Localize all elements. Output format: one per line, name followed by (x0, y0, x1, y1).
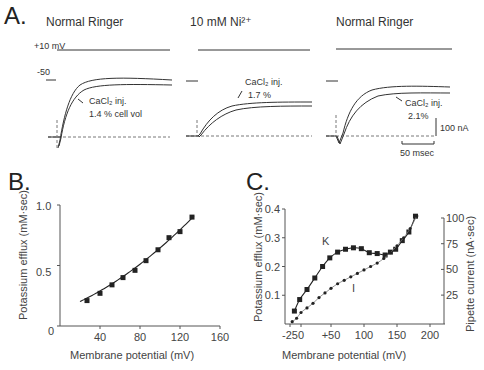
chart-b-data-point (167, 235, 172, 240)
chart-c-xtick-label: 0 (298, 329, 304, 341)
chart-c-i-point (317, 296, 320, 299)
chart-b-ytick-2: 1.0 (36, 200, 51, 212)
chart-c-xlabel: Membrane potential (mV) (282, 349, 406, 361)
chart-c-i-point (369, 265, 372, 268)
chart-c-i-point (349, 275, 352, 278)
chart-c-ytick-right-label: 100 (446, 212, 464, 224)
series-label-i: I (352, 282, 355, 294)
chart-b-data-point (156, 247, 161, 252)
chart-c-i-point (362, 268, 365, 271)
chart-b-xtick-label: 40 (94, 331, 106, 343)
chart-c-i-point (311, 302, 314, 305)
chart-b-data-point (178, 229, 183, 234)
chart-c-k-point (343, 247, 348, 252)
chart-c-i-point (295, 317, 298, 320)
panel-c-letter: C. (246, 168, 270, 195)
chart-c-ytick-label: 0.3 (265, 232, 280, 244)
chart-c-i-point (336, 282, 339, 285)
annotation-1-line2: 1.4 % cell vol (89, 109, 142, 119)
chart-b-xtick-label: 80 (134, 331, 146, 343)
chart-c-xtick-label: 200 (421, 329, 439, 341)
chart-c-i-point (395, 244, 398, 247)
chart-b-data-point (98, 291, 103, 296)
chart-c-k-point (305, 287, 310, 292)
annotation-2-line1: CaCl₂ inj. (245, 77, 283, 87)
panel-b: B. 4080120160 0 0.5 1.0 Membrane potenti… (8, 168, 229, 361)
scale-time-label: 50 msec (400, 148, 435, 158)
chart-b-ytick-0: 0 (48, 325, 54, 337)
chart-c-i-point (305, 306, 308, 309)
chart-c-k-point (335, 250, 340, 255)
chart-c-i-point (291, 320, 294, 323)
chart-b-data-point (144, 258, 149, 263)
panel-c: C. 0.10.20.30.4255075100-250+50100150200… (246, 168, 476, 361)
chart-c-k-line (294, 216, 415, 311)
chart-c-k-point (312, 276, 317, 281)
chart-c-k-point (297, 297, 302, 302)
chart-c-ytick-right-label: 75 (446, 238, 458, 250)
chart-b-data-point (133, 268, 138, 273)
chart-c-ytick-right-label: 25 (446, 289, 458, 301)
chart-b-ytick-1: 0.5 (36, 266, 51, 278)
chart-c: 0.10.20.30.4255075100-250+50100150200 (265, 203, 465, 341)
current-traces-2: CaCl₂ inj. 1.7 % (186, 77, 312, 137)
chart-b-ylabel: Potassium efflux (mM·sec) (17, 190, 29, 320)
chart-c-k-point (327, 255, 332, 260)
chart-c-ytick-label: 0.2 (265, 261, 280, 273)
chart-c-ylabel-left: Potassium efflux (mM·sec) (252, 192, 264, 322)
figure: A. Normal Ringer 10 mM Ni²⁺ Normal Ringe… (0, 0, 484, 370)
current-traces-1: CaCl₂ inj. 1.4 % cell vol (48, 78, 172, 148)
chart-c-k-point (292, 309, 297, 314)
scale-bars: 100 nA 50 msec (400, 118, 469, 158)
chart-b-data-point (121, 275, 126, 280)
annotation-2-line2: 1.7 % (248, 90, 271, 100)
chart-c-xtick-label: 150 (388, 329, 406, 341)
chart-c-i-line (292, 216, 417, 322)
chart-b-xtick-label: 160 (211, 331, 229, 343)
chart-c-i-point (389, 251, 392, 254)
annotation-1-line1: CaCl₂ inj. (89, 96, 127, 106)
chart-c-i-point (356, 272, 359, 275)
chart-c-i-point (415, 214, 418, 217)
chart-c-i-point (402, 236, 405, 239)
panel-a-letter: A. (4, 2, 27, 29)
chart-c-k-point (375, 251, 380, 256)
chart-c-k-point (320, 264, 325, 269)
voltage-low-label: -50 (37, 67, 50, 77)
chart-c-i-point (329, 287, 332, 290)
chart-b: 4080120160 (57, 205, 229, 343)
chart-c-k-point (359, 246, 364, 251)
chart-c-i-point (343, 279, 346, 282)
condition-title-3: Normal Ringer (336, 15, 413, 29)
chart-c-i-point (409, 227, 412, 230)
chart-c-ylabel-right: Pipette current (nA·sec) (464, 216, 476, 332)
chart-c-ytick-label: 0.4 (265, 203, 280, 215)
chart-b-data-point (110, 282, 115, 287)
annotation-3-line1: CaCl₂ inj. (405, 98, 443, 108)
chart-c-i-point (376, 261, 379, 264)
chart-c-i-point (382, 257, 385, 260)
chart-c-xtick-label: 100 (355, 329, 373, 341)
chart-c-xtick-label: -25 (282, 329, 298, 341)
chart-c-ytick-right-label: 50 (446, 263, 458, 275)
chart-c-k-point (351, 245, 356, 250)
chart-c-k-point (383, 253, 388, 258)
condition-title-2: 10 mM Ni²⁺ (190, 15, 252, 29)
chart-b-xtick-label: 120 (171, 331, 189, 343)
chart-c-i-point (299, 311, 302, 314)
chart-c-ytick-label: 0.1 (265, 289, 280, 301)
annotation-3-line2: 2.1% (408, 111, 429, 121)
series-label-k: K (322, 235, 330, 247)
chart-b-fit-line (80, 216, 194, 302)
panel-a: A. Normal Ringer 10 mM Ni²⁺ Normal Ringe… (4, 2, 469, 158)
chart-c-xtick-label: +50 (322, 329, 341, 341)
chart-b-data-point (190, 215, 195, 220)
chart-c-k-point (367, 250, 372, 255)
condition-title-1: Normal Ringer (46, 15, 123, 29)
chart-c-i-point (323, 291, 326, 294)
chart-b-xlabel: Membrane potential (mV) (70, 349, 194, 361)
scale-current-label: 100 nA (440, 123, 469, 133)
current-traces-3: CaCl₂ inj. 2.1% (326, 86, 450, 144)
chart-b-data-point (85, 298, 90, 303)
